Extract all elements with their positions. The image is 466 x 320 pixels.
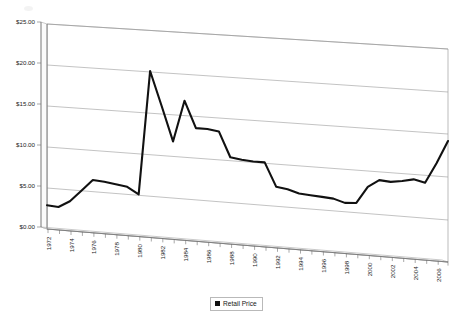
x-tick-label: 1978: [113, 242, 120, 256]
y-axis-ticks: [37, 22, 41, 227]
plot-back-wall: [47, 24, 448, 262]
x-tick-label: 1972: [45, 236, 52, 250]
x-tick-label: 1984: [182, 247, 189, 261]
y-tick-label: $20.00: [16, 59, 35, 66]
y-tick-label: $5.00: [20, 182, 36, 189]
x-tick-label: 1994: [297, 256, 304, 270]
x-tick-label: 1982: [159, 245, 166, 259]
x-tick-label: 2006: [435, 268, 442, 282]
legend-swatch-retail-price: [215, 301, 220, 306]
x-tick-label: 1986: [205, 249, 212, 263]
y-tick-label: $10.00: [16, 141, 35, 148]
line-chart: $25.00 $20.00 $15.00 $10.00 $5.00 $0.00: [0, 0, 466, 320]
y-tick-label: $0.00: [20, 223, 36, 230]
y-axis-labels: $25.00 $20.00 $15.00 $10.00 $5.00 $0.00: [16, 18, 35, 230]
x-tick-label: 1974: [68, 238, 75, 252]
x-tick-label: 2004: [412, 266, 419, 280]
x-tick-label: 1980: [136, 243, 143, 257]
x-tick-label: 2000: [366, 262, 373, 276]
x-tick-label: 1998: [343, 260, 350, 274]
chart-legend: Retail Price: [210, 297, 263, 311]
x-tick-label: 1990: [251, 253, 258, 267]
chart-container: $25.00 $20.00 $15.00 $10.00 $5.00 $0.00: [0, 0, 466, 320]
x-tick-label: 1996: [320, 258, 327, 272]
x-tick-label: 1988: [228, 251, 235, 265]
x-tick-label: 1976: [90, 240, 97, 254]
y-tick-label: $15.00: [16, 100, 35, 107]
x-tick-label: 2002: [389, 264, 396, 278]
legend-label-retail-price: Retail Price: [223, 299, 257, 308]
plot-side-wall: [41, 22, 47, 229]
x-tick-label: 1992: [274, 255, 281, 269]
y-tick-label: $25.00: [16, 18, 35, 25]
